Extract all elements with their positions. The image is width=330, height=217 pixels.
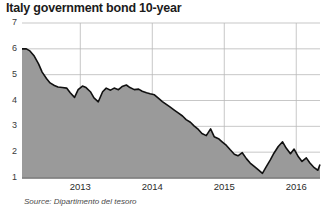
y-tick-label-3: 3 — [3, 120, 17, 130]
y-tick-label-4: 4 — [3, 95, 17, 105]
x-tick-label-2015: 2015 — [204, 181, 244, 192]
source-note: Source: Dipartimento del tesoro — [24, 197, 137, 206]
y-tick-label-5: 5 — [3, 69, 17, 79]
x-tick-label-2013: 2013 — [60, 181, 100, 192]
chart-container: Italy government bond 10-year 1234567 20… — [0, 0, 330, 217]
x-tick-label-2014: 2014 — [132, 181, 172, 192]
y-tick-label-7: 7 — [3, 17, 17, 27]
x-tick-label-2016: 2016 — [276, 181, 316, 192]
y-tick-label-6: 6 — [3, 43, 17, 53]
series-group — [22, 49, 320, 178]
y-tick-label-2: 2 — [3, 146, 17, 156]
y-tick-label-1: 1 — [3, 172, 17, 182]
series-area-fill — [22, 49, 320, 178]
